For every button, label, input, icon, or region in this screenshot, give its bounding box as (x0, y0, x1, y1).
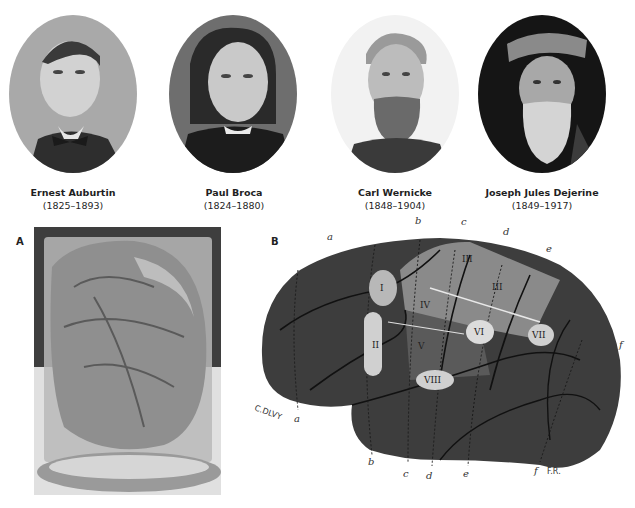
portrait-paul-broca (168, 14, 298, 174)
portrait-name: Joseph Jules Dejerine (462, 186, 622, 199)
caption-joseph-jules-dejerine: Joseph Jules Dejerine (1849–1917) (462, 186, 622, 212)
label-e-bottom: e (463, 468, 469, 479)
region-label-VI: VI (473, 327, 484, 337)
label-b-bottom: b (368, 456, 374, 467)
label-a-bottom: a (294, 413, 300, 424)
caption-paul-broca: Paul Broca (1824–1880) (154, 186, 314, 212)
brain-jar-icon (34, 227, 221, 495)
label-e-top: e (546, 243, 552, 254)
portrait-photo-icon (168, 14, 298, 174)
label-f-bottom: f (533, 465, 540, 476)
panel-a-label: A (16, 236, 24, 247)
portrait-carl-wernicke (330, 14, 460, 174)
region-label-III-upper: III (462, 254, 473, 264)
brain-lateral-diagram: I II III III IV V VI VII VIII a b c d e … (240, 210, 635, 508)
portrait-photo-icon (330, 14, 460, 174)
portrait-joseph-jules-dejerine (477, 14, 607, 174)
portrait-ernest-auburtin (8, 14, 138, 174)
artist-signature: C.DLVY (253, 403, 283, 421)
region-label-I: I (380, 283, 384, 293)
portrait-photo-icon (477, 14, 607, 174)
region-label-III-lower: III (492, 282, 503, 292)
portrait-name: Ernest Auburtin (0, 186, 153, 199)
region-label-V: V (417, 341, 425, 351)
label-d-bottom: d (426, 470, 432, 481)
label-c-bottom: c (403, 468, 409, 479)
portrait-name: Carl Wernicke (315, 186, 475, 199)
caption-carl-wernicke: Carl Wernicke (1848–1904) (315, 186, 475, 212)
label-d-top: d (503, 226, 509, 237)
brain-jar-photo (34, 227, 221, 495)
label-c-top: c (461, 216, 467, 227)
region-label-IV: IV (420, 300, 431, 310)
portrait-years: (1825–1893) (0, 199, 153, 212)
caption-ernest-auburtin: Ernest Auburtin (1825–1893) (0, 186, 153, 212)
portrait-name: Paul Broca (154, 186, 314, 199)
label-f-right: f (618, 339, 625, 350)
region-label-VII: VII (531, 330, 546, 340)
region-label-VIII: VIII (423, 375, 442, 385)
region-label-II: II (372, 340, 380, 350)
label-a-top: a (327, 231, 333, 242)
label-b-top: b (415, 215, 421, 226)
corner-initials: F.R. (547, 467, 561, 476)
brain-diagram-icon: I II III III IV V VI VII VIII a b c d e … (240, 210, 635, 508)
portrait-photo-icon (8, 14, 138, 174)
